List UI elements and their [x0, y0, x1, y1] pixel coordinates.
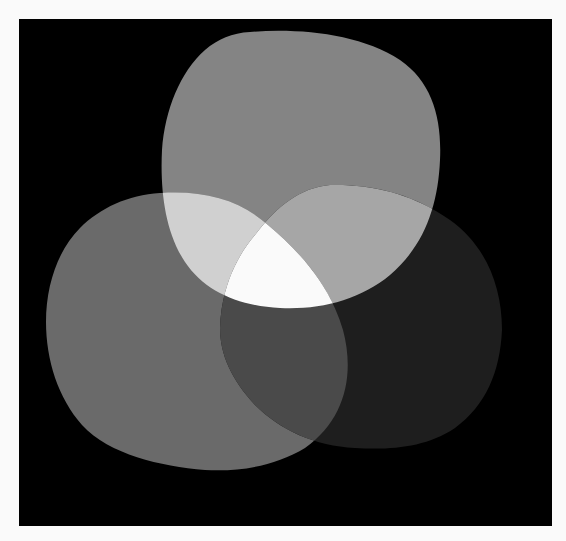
venn-diagram — [0, 0, 566, 541]
